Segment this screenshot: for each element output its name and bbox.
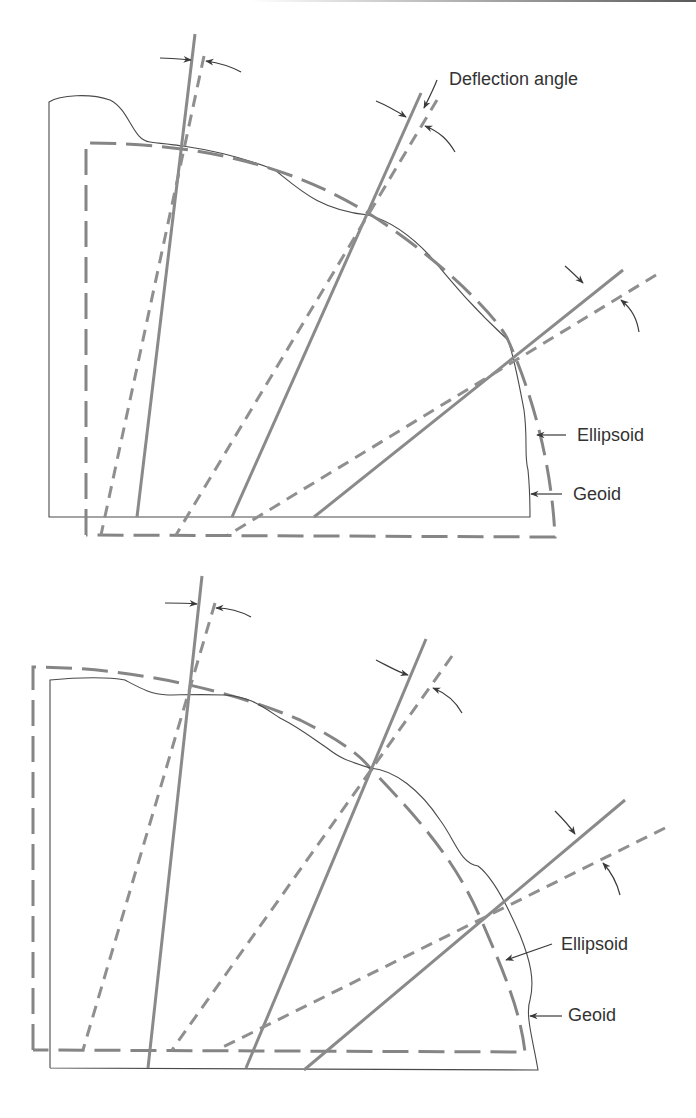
bottom-arrow-2a xyxy=(376,660,408,675)
bottom-ellipsoid-outline xyxy=(33,667,525,1052)
bottom-normal-line-2 xyxy=(172,656,452,1050)
top-normal-line-1 xyxy=(101,56,204,535)
bottom-arrow-1b xyxy=(216,608,251,617)
bottom-ellipsoid-label: Ellipsoid xyxy=(561,935,628,953)
top-normal-line-2 xyxy=(176,100,437,535)
top-panel xyxy=(49,34,656,537)
bottom-arrow-2b xyxy=(433,688,462,713)
bottom-arrow-3b xyxy=(603,863,620,895)
top-plumb-line-3 xyxy=(314,270,623,517)
bottom-plumb-line-1 xyxy=(148,576,202,1068)
bottom-arrow-3a xyxy=(555,811,575,834)
top-ellipsoid-label: Ellipsoid xyxy=(577,426,644,444)
bottom-plumb-line-2 xyxy=(246,639,426,1068)
bottom-ellipsoid-pointer xyxy=(506,944,552,960)
bottom-geoid-label: Geoid xyxy=(568,1006,616,1024)
top-arrow-2a xyxy=(376,101,406,117)
top-geoid-outline xyxy=(49,96,530,517)
top-geoid-label: Geoid xyxy=(573,485,621,503)
bottom-geoid-outline xyxy=(50,678,538,1070)
top-arrow-3a xyxy=(565,266,583,283)
bottom-arrow-1a xyxy=(165,603,197,604)
top-arrow-3b xyxy=(621,300,639,332)
bottom-panel xyxy=(33,576,665,1070)
top-arrow-2b xyxy=(425,126,455,152)
top-arrow-1b xyxy=(206,61,241,72)
top-arrow-1a xyxy=(160,58,191,60)
top-plumb-line-1 xyxy=(137,34,195,517)
deflection-angle-label: Deflection angle xyxy=(449,70,578,88)
